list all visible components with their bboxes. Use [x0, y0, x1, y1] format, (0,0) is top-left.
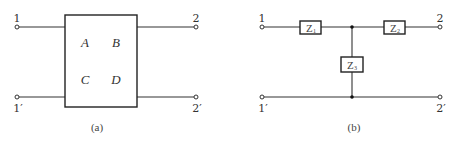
z1-subscript: 1 [313, 28, 316, 34]
terminal-b-1-prime [260, 95, 264, 99]
impedance-z2: Z 2 [384, 21, 405, 34]
junction-dot-bottom [350, 95, 354, 99]
label-b-2-prime: 2′ [436, 102, 446, 115]
label-a-1-prime: 1′ [13, 102, 23, 115]
terminal-b-2 [438, 25, 442, 29]
param-D: D [110, 72, 121, 87]
label-b-2: 2 [437, 12, 444, 25]
terminal-a-2 [194, 25, 198, 29]
impedance-z3: Z 3 [341, 57, 363, 72]
label-b-1: 1 [259, 12, 266, 25]
label-a-2-prime: 2′ [192, 102, 202, 115]
impedance-z1: Z 1 [300, 21, 321, 34]
terminal-a-1-prime [15, 95, 19, 99]
caption-a: (a) [91, 121, 104, 134]
label-a-1: 1 [14, 12, 21, 25]
junction-dot-top [350, 25, 354, 29]
diagram-a: 1 1′ 2 2′ A B C D (a) [13, 12, 202, 134]
abcd-network-box [65, 15, 137, 107]
two-port-network-figure: 1 1′ 2 2′ A B C D (a) Z 1 Z 2 [0, 0, 453, 141]
z2-subscript: 2 [397, 28, 400, 34]
label-b-1-prime: 1′ [258, 102, 268, 115]
terminal-b-1 [260, 25, 264, 29]
terminal-a-2-prime [194, 95, 198, 99]
param-C: C [81, 72, 90, 87]
z1-symbol: Z [306, 22, 313, 34]
caption-b: (b) [348, 121, 361, 134]
terminal-a-1 [15, 25, 19, 29]
z3-symbol: Z [347, 59, 354, 71]
z3-subscript: 3 [354, 65, 357, 71]
param-A: A [80, 35, 89, 50]
param-B: B [112, 35, 120, 50]
terminal-b-2-prime [438, 95, 442, 99]
z2-symbol: Z [390, 22, 397, 34]
label-a-2: 2 [193, 12, 200, 25]
diagram-b: Z 1 Z 2 Z 3 1 1′ 2 2′ (b) [258, 12, 446, 134]
